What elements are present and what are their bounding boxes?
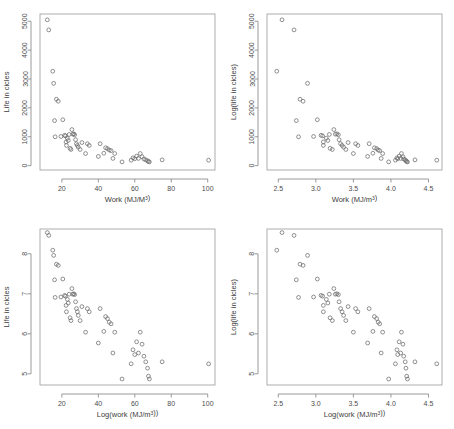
x-tick-label: 20 bbox=[58, 185, 66, 192]
data-point bbox=[138, 330, 142, 334]
x-tick-label: 3.0 bbox=[311, 185, 321, 192]
data-point bbox=[297, 135, 301, 139]
x-tick-label: 3.5 bbox=[349, 185, 359, 192]
data-point bbox=[292, 234, 296, 238]
y-tick-label: 0 bbox=[249, 164, 256, 168]
data-point bbox=[67, 133, 71, 137]
data-point bbox=[312, 295, 316, 299]
y-tick-label: 3000 bbox=[249, 71, 256, 87]
data-point bbox=[87, 310, 91, 314]
y-tick-label: 3000 bbox=[22, 71, 29, 87]
y-tick-label: 1000 bbox=[249, 129, 256, 145]
x-tick-label: 3.0 bbox=[311, 400, 321, 407]
axis-title-text: Work (MJ/M3) bbox=[105, 193, 151, 204]
data-point bbox=[342, 314, 346, 318]
data-point bbox=[51, 248, 55, 252]
data-point bbox=[53, 278, 57, 282]
x-tick-label: 100 bbox=[202, 185, 214, 192]
data-point bbox=[366, 155, 370, 159]
data-point bbox=[402, 354, 406, 358]
data-point bbox=[324, 298, 328, 302]
data-point bbox=[61, 118, 65, 122]
data-point bbox=[53, 296, 57, 300]
data-point bbox=[69, 148, 73, 152]
data-point bbox=[135, 340, 139, 344]
y-tick-label: 7 bbox=[22, 292, 29, 296]
data-point bbox=[337, 300, 341, 304]
axis-title-text: Life in cicles bbox=[2, 286, 11, 327]
data-point bbox=[371, 151, 375, 155]
data-point bbox=[306, 81, 310, 85]
data-point bbox=[47, 28, 51, 32]
data-point bbox=[344, 319, 348, 323]
data-point bbox=[113, 152, 117, 156]
data-point bbox=[45, 18, 49, 22]
data-point bbox=[332, 287, 336, 291]
data-point bbox=[321, 304, 325, 308]
data-point bbox=[76, 314, 80, 318]
data-point bbox=[120, 160, 124, 164]
data-point bbox=[395, 348, 399, 352]
data-point bbox=[66, 301, 70, 305]
data-point bbox=[332, 128, 336, 132]
data-point bbox=[144, 360, 148, 364]
x-tick-label: 80 bbox=[167, 185, 175, 192]
data-point bbox=[306, 254, 310, 258]
data-point bbox=[280, 231, 284, 235]
data-point bbox=[160, 158, 164, 162]
data-point bbox=[137, 351, 141, 355]
data-point bbox=[74, 300, 78, 304]
data-point bbox=[96, 155, 100, 159]
data-point bbox=[387, 377, 391, 381]
data-point bbox=[435, 362, 439, 366]
data-point bbox=[321, 310, 325, 314]
data-point bbox=[65, 298, 69, 302]
data-point bbox=[351, 152, 355, 156]
data-point bbox=[397, 340, 401, 344]
data-point bbox=[74, 138, 78, 142]
x-tick-label: 60 bbox=[131, 185, 139, 192]
x-tick-label: 80 bbox=[167, 400, 175, 407]
x-tick-label: 2.5 bbox=[273, 185, 283, 192]
data-point bbox=[146, 366, 150, 370]
x-tick-label: 4.5 bbox=[424, 400, 434, 407]
data-point bbox=[346, 141, 350, 145]
y-tick-label: 5 bbox=[22, 372, 29, 376]
y-tick-label: 5000 bbox=[249, 13, 256, 29]
panel-top-left: 20406080100010002000300040005000Work (MJ… bbox=[0, 0, 227, 214]
data-point bbox=[381, 152, 385, 156]
data-points bbox=[275, 231, 439, 381]
y-axis: 5678 bbox=[249, 252, 259, 376]
data-point bbox=[70, 128, 74, 132]
y-tick-label: 0 bbox=[22, 164, 29, 168]
data-points bbox=[45, 18, 210, 164]
x-tick-label: 20 bbox=[58, 400, 66, 407]
data-point bbox=[330, 319, 334, 323]
data-point bbox=[315, 277, 319, 281]
data-point bbox=[394, 362, 398, 366]
y-tick-label: 6 bbox=[249, 332, 256, 336]
data-point bbox=[346, 305, 350, 309]
x-tick-label: 4.0 bbox=[386, 400, 396, 407]
x-axis: 2.53.03.54.04.5 bbox=[273, 394, 433, 407]
data-point bbox=[400, 330, 404, 334]
y-tick-label: 2000 bbox=[249, 100, 256, 116]
scatter-plot-top-left: 20406080100010002000300040005000Work (MJ… bbox=[0, 0, 227, 214]
data-point bbox=[294, 119, 298, 123]
data-point bbox=[207, 158, 211, 162]
data-point bbox=[315, 118, 319, 122]
data-point bbox=[367, 142, 371, 146]
data-point bbox=[337, 138, 341, 142]
data-point bbox=[65, 310, 69, 314]
y-axis: 010002000300040005000 bbox=[249, 13, 259, 167]
data-point bbox=[52, 254, 56, 258]
data-point bbox=[51, 69, 55, 73]
y-tick-label: 1000 bbox=[22, 129, 29, 145]
plot-frame bbox=[267, 14, 442, 170]
x-tick-label: 3.5 bbox=[349, 400, 359, 407]
x-tick-label: 2.5 bbox=[273, 400, 283, 407]
data-point bbox=[80, 141, 84, 145]
data-point bbox=[413, 158, 417, 162]
plot-frame bbox=[40, 14, 215, 170]
scatter-plot-bottom-left: 204060801005678Log(work (MJ/m3))Life in … bbox=[0, 215, 227, 429]
